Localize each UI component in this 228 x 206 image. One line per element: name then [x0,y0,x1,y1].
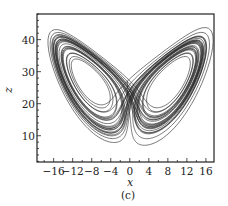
y-axis-label: z [2,87,15,94]
lorenz-chart: −16−12−8−40481216 10203040 x z (c) [0,0,228,206]
x-tick-label: 12 [180,165,193,177]
y-tick-label: 20 [22,98,35,110]
y-tick-label: 30 [22,66,35,78]
x-tick-label: −4 [103,165,119,177]
x-tick-label: 8 [165,165,172,177]
x-tick-label: −8 [84,165,99,177]
y-tick-label: 40 [22,34,35,46]
x-axis-label: x [127,176,134,189]
trajectory-line [48,28,213,146]
trajectory-path [48,28,213,146]
x-tick-label: 4 [145,165,152,177]
x-tick-label: −12 [62,165,84,177]
y-tick-label: 10 [22,130,35,142]
figure-caption: (c) [121,189,135,201]
x-axis-ticks: −16−12−8−40481216 [43,158,213,177]
y-axis-ticks: 10203040 [22,14,41,161]
x-tick-label: 16 [199,165,213,177]
